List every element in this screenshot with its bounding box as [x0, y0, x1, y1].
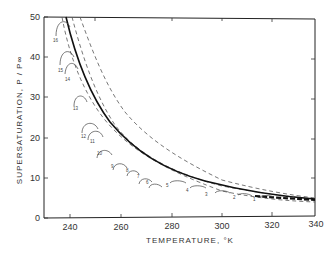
supersaturation-chart: 0 10 20 30 40 50 240 260 280 300 320 340… [0, 0, 334, 256]
arc-label-2: 2 [233, 195, 236, 200]
x-axis-title: TEMPERATURE, °K [146, 236, 234, 245]
arc-label-4: 4 [186, 188, 189, 193]
x-tick-340: 340 [308, 219, 323, 229]
arc-label-11: 11 [90, 139, 95, 144]
arc-label-12: 12 [81, 134, 87, 139]
x-tick-300: 300 [214, 221, 229, 231]
dashed-curve-2 [62, 17, 315, 202]
dashed-curve-1 [72, 17, 315, 199]
y-tick-labels: 0 10 20 30 40 50 [30, 12, 40, 223]
y-axis-title: SUPERSATURATION, P / P∞ [15, 56, 24, 184]
x-tick-260: 260 [113, 222, 128, 232]
x-tick-240: 240 [62, 222, 77, 232]
x-tick-labels: 240 260 280 300 320 340 [62, 219, 323, 232]
arc-number-labels: 1 2 3 4 5 6 7 8 9 10 11 12 13 14 15 16 [53, 38, 256, 202]
y-tick-0: 0 [35, 213, 40, 223]
arc-label-13: 13 [73, 106, 79, 111]
dashed-curve-3 [80, 17, 315, 198]
y-tick-10: 10 [30, 173, 40, 183]
arc-label-6: 6 [146, 180, 149, 185]
arc-label-16: 16 [53, 38, 59, 43]
numbered-arcs [56, 22, 274, 197]
plot-frame [44, 17, 315, 218]
x-tick-320: 320 [264, 220, 279, 230]
y-tick-30: 30 [30, 92, 40, 102]
arc-label-1: 1 [253, 197, 256, 202]
arc-label-10: 10 [97, 151, 103, 156]
main-solid-curve [66, 17, 315, 199]
y-tick-20: 20 [30, 133, 40, 143]
y-axis-ticks [44, 17, 315, 218]
y-tick-50: 50 [30, 12, 40, 22]
arc-label-5: 5 [166, 183, 169, 188]
x-tick-280: 280 [164, 221, 179, 231]
dashed-curves [62, 17, 315, 202]
y-tick-40: 40 [30, 52, 40, 62]
x-axis-ticks [70, 18, 272, 218]
arc-label-14: 14 [65, 77, 71, 82]
arc-label-7: 7 [137, 174, 140, 179]
arc-label-15: 15 [58, 68, 64, 73]
arc-label-3: 3 [205, 192, 208, 197]
